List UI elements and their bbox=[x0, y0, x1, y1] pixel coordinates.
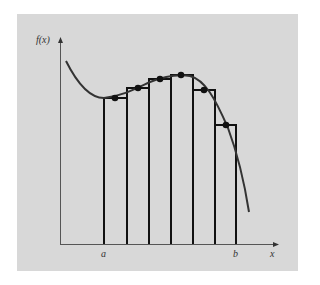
rectangle-4 bbox=[171, 75, 193, 244]
lower-limit-label: a bbox=[101, 249, 106, 259]
midpoint-dot-3 bbox=[157, 76, 164, 83]
midpoint-dot-1 bbox=[112, 95, 119, 102]
x-axis-arrow-icon bbox=[273, 242, 279, 247]
rectangle-2 bbox=[127, 88, 149, 244]
upper-limit-label: b bbox=[233, 249, 238, 259]
rectangle-5 bbox=[193, 90, 215, 244]
midpoint-dot-4 bbox=[178, 72, 185, 79]
midpoint-dot-2 bbox=[135, 85, 142, 92]
rectangle-3 bbox=[149, 79, 171, 244]
y-axis-arrow-icon bbox=[58, 37, 63, 43]
rectangle-1 bbox=[104, 98, 127, 244]
midpoint-dot-6 bbox=[223, 122, 230, 129]
x-axis-label: x bbox=[270, 249, 274, 259]
rectangles bbox=[104, 75, 236, 244]
function-curve bbox=[66, 61, 249, 212]
axes bbox=[58, 37, 279, 247]
y-axis-label: f(x) bbox=[36, 35, 50, 45]
midpoint-dot-5 bbox=[201, 87, 208, 94]
